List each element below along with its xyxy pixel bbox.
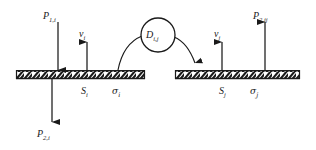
leader-sigma-j-curve — [174, 37, 195, 63]
left-plate-group — [16, 70, 145, 79]
right-plate-group — [175, 70, 300, 79]
label-p1i: P1,i — [42, 10, 56, 23]
label-sigma-i: σi — [112, 86, 120, 99]
label-p2ij: P2,ij — [252, 10, 268, 23]
figure-canvas: P1,i vi P2,i Si σi Di,j vj P2,ij Sj σj — [0, 0, 316, 150]
label-sj: Sj — [219, 85, 226, 98]
label-si: Si — [81, 85, 88, 98]
label-vj: vj — [214, 28, 220, 41]
right-hatched-plate — [175, 70, 300, 79]
leader-sigma-i-curve — [118, 36, 142, 70]
diagram-svg: P1,i vi P2,i Si σi Di,j vj P2,ij Sj σj — [0, 0, 316, 150]
label-p2i: P2,i — [36, 128, 50, 141]
label-vi: vi — [79, 28, 85, 41]
left-hatched-plate — [16, 70, 145, 79]
label-sigma-j: σj — [250, 86, 258, 99]
